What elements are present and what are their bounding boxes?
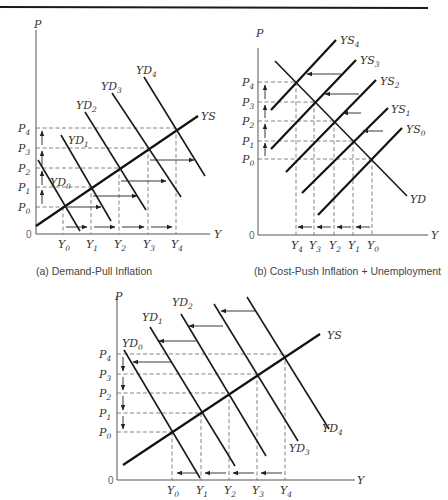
label-ys3: YS3 (360, 54, 380, 69)
label-p0: P0 (98, 426, 111, 441)
supply-curves (271, 40, 402, 215)
label-y4: Y4 (171, 238, 183, 253)
diagram-demand-pull: P Y 0 YS YD0 YD1 YD2 YD3 YD4 (17, 18, 223, 277)
label-ys0: YS0 (406, 123, 426, 138)
label-y1: Y1 (196, 484, 208, 499)
label-y3: Y3 (309, 239, 321, 254)
origin-label: 0 (249, 230, 255, 241)
label-p1: P1 (17, 181, 30, 196)
label-p2: P2 (98, 387, 111, 402)
axis-label-y: Y (431, 229, 440, 242)
diagram-cost-push: P Y 0 YD YS0 YS1 YS2 YS3 YS4 (241, 27, 441, 277)
axis-label-p: P (255, 27, 264, 40)
label-yd3: YD3 (289, 442, 310, 457)
supply-curve-ys (36, 116, 198, 226)
label-p0: P0 (17, 201, 30, 216)
axis-label-p: P (33, 18, 42, 31)
label-y3: Y3 (143, 238, 155, 253)
label-p3: P3 (17, 142, 30, 157)
label-yd0: YD0 (50, 176, 71, 191)
label-yd: YD (410, 193, 426, 206)
label-y4: Y4 (291, 239, 303, 254)
label-yd3: YD3 (101, 80, 122, 95)
label-yd1: YD1 (68, 134, 89, 149)
label-ys2: YS2 (380, 75, 400, 90)
label-y2: Y2 (329, 239, 341, 254)
axes (258, 48, 428, 235)
label-y3: Y3 (252, 484, 264, 499)
label-p3: P3 (241, 96, 254, 111)
label-yd0: YD0 (122, 337, 143, 352)
label-y2: Y2 (224, 484, 236, 499)
label-yd1: YD1 (142, 311, 163, 326)
supply-shift-arrows (307, 74, 383, 131)
label-y1: Y1 (86, 238, 98, 253)
caption-b: (b) Cost-Push Inflation + Unemployment (254, 265, 441, 277)
axis-label-y: Y (214, 228, 223, 241)
label-yd4: YD4 (136, 64, 157, 79)
label-p2: P2 (17, 162, 30, 177)
top-rule (0, 7, 428, 8)
label-p1: P1 (241, 135, 254, 150)
label-ys4: YS4 (340, 34, 360, 49)
label-ys1: YS1 (391, 103, 411, 118)
label-y0: Y0 (167, 484, 179, 499)
axis-label-y: Y (357, 474, 366, 487)
label-y2: Y2 (114, 238, 126, 253)
label-p3: P3 (98, 368, 111, 383)
axes (36, 30, 210, 234)
axis-label-p: P (114, 290, 123, 303)
label-y0: Y0 (367, 239, 379, 254)
label-p4: P4 (241, 76, 254, 91)
label-yd4: YD4 (322, 422, 343, 437)
label-ys: YS (327, 329, 342, 342)
label-ys: YS (201, 110, 216, 123)
label-p2: P2 (241, 115, 254, 130)
origin-label: 0 (26, 229, 32, 240)
label-p4: P4 (17, 122, 30, 137)
label-yd2: YD2 (76, 99, 97, 114)
origin-label: 0 (108, 475, 114, 486)
caption-a: (a) Demand-Pull Inflation (36, 265, 152, 277)
label-p0: P0 (241, 153, 254, 168)
label-y4: Y4 (280, 484, 292, 499)
label-p1: P1 (98, 407, 111, 422)
diagram-demand-contraction: P Y 0 YS YD0 YD1 YD2 YD3 YD4 (98, 290, 366, 499)
label-y1: Y1 (348, 239, 360, 254)
label-yd2: YD2 (172, 296, 193, 311)
label-p4: P4 (98, 348, 111, 363)
label-y0: Y0 (58, 238, 70, 253)
